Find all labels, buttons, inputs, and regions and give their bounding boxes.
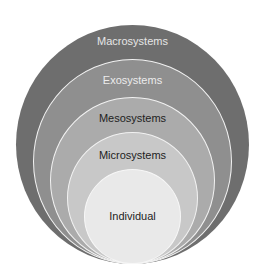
label-microsystems: Microsystems [0, 149, 265, 161]
label-individual: Individual [0, 210, 265, 222]
label-exosystems: Exosystems [0, 74, 265, 86]
label-mesosystems: Mesosystems [0, 112, 265, 124]
label-macrosystems: Macrosystems [0, 35, 265, 47]
